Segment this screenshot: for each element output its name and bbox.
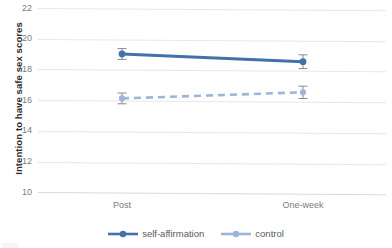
legend-item-control[interactable]: control [221, 228, 284, 239]
legend-line-marker-icon-control [221, 229, 251, 239]
y-tick-label-10: 10 [6, 187, 32, 197]
y-tick-label-14: 14 [6, 125, 32, 135]
legend-label-self-affirmation: self-affirmation [142, 228, 204, 239]
self-affirmation-marker-post [119, 51, 126, 58]
y-tick-label-12: 12 [6, 156, 32, 166]
y-tick-label-16: 16 [6, 95, 32, 105]
chart-container: Intention to have safe sex scores 22 20 … [0, 0, 392, 248]
plot-area [38, 8, 386, 193]
y-tick-label-18: 18 [6, 64, 32, 74]
control-marker-post [119, 95, 125, 101]
y-tick-label-20: 20 [6, 33, 32, 43]
x-tick-label-post: Post [77, 200, 167, 211]
control-line [122, 92, 303, 98]
scan-artifact [2, 243, 18, 248]
x-tick-label-one-week: One-week [258, 200, 348, 211]
series-layer [38, 8, 386, 193]
control-marker-oneweek [300, 89, 306, 95]
legend-label-control: control [255, 228, 284, 239]
legend-item-self-affirmation[interactable]: self-affirmation [108, 228, 204, 239]
self-affirmation-marker-oneweek [300, 58, 307, 65]
y-tick-label-22: 22 [6, 3, 32, 13]
legend: self-affirmation control [0, 228, 392, 239]
series-self-affirmation [118, 49, 308, 69]
legend-line-marker-icon [108, 229, 138, 239]
series-control [118, 86, 308, 104]
self-affirmation-line [122, 54, 303, 62]
